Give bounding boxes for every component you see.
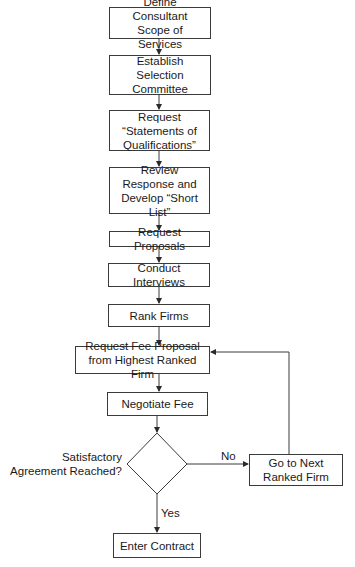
step-define-scope: Define Consultant Scope of Services [109,7,211,39]
step-label: Request “Statements of Qualifications” [112,110,207,152]
step-enter-contract: Enter Contract [113,533,201,558]
step-rank-firms: Rank Firms [108,304,210,327]
step-request-soq: Request “Statements of Qualifications” [109,110,210,151]
step-label: Request Fee Proposal from Highest Ranked… [78,339,207,381]
step-label: Define Consultant Scope of Services [120,0,200,51]
no-label: No [221,449,236,463]
decision-label: Satisfactory Agreement Reached? [10,450,122,478]
step-negotiate-fee: Negotiate Fee [107,392,208,416]
step-label: Request Proposals [112,225,207,253]
step-label: Go to Next Ranked Firm [261,456,331,484]
step-request-fee-proposal: Request Fee Proposal from Highest Ranked… [75,346,210,374]
decision-diamond [127,433,187,494]
yes-label: Yes [161,506,180,520]
step-label: Negotiate Fee [121,397,193,411]
step-label: Review Response and Develop “Short List” [114,163,206,219]
step-establish-committee: Establish Selection Committee [109,55,211,95]
step-request-proposals: Request Proposals [109,231,210,247]
step-label: Enter Contract [120,539,194,553]
step-label: Establish Selection Committee [115,54,205,96]
step-go-to-next-firm: Go to Next Ranked Firm [249,454,343,486]
step-conduct-interviews: Conduct Interviews [108,263,210,287]
step-review-response: Review Response and Develop “Short List” [109,167,210,214]
step-label: Rank Firms [130,309,189,323]
step-label: Conduct Interviews [111,261,207,289]
